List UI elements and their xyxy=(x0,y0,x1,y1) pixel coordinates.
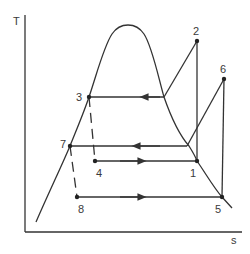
label-8: 8 xyxy=(78,203,84,215)
label-1: 1 xyxy=(190,167,196,179)
point-4 xyxy=(93,159,97,163)
line-6-to-dome xyxy=(187,79,224,146)
x-axis-label: s xyxy=(231,234,237,246)
line-5-to-6 xyxy=(222,79,224,197)
point-3 xyxy=(87,95,91,99)
label-6: 6 xyxy=(220,63,226,75)
line-3-to-4-dashed xyxy=(89,97,95,161)
t-s-diagram: T s 1 xyxy=(0,0,250,254)
label-5: 5 xyxy=(215,203,221,215)
label-3: 3 xyxy=(76,91,82,103)
line-7-to-8-dashed xyxy=(70,146,77,197)
saturation-dome xyxy=(36,25,232,222)
point-2 xyxy=(195,39,199,43)
axes xyxy=(25,15,242,232)
y-axis-label: T xyxy=(13,15,20,27)
point-6 xyxy=(222,77,226,81)
label-7: 7 xyxy=(60,138,66,150)
cycle-lines xyxy=(70,41,224,197)
label-2: 2 xyxy=(193,25,199,37)
line-2-to-dome xyxy=(164,41,197,97)
label-4: 4 xyxy=(96,167,102,179)
point-5 xyxy=(220,195,224,199)
point-1 xyxy=(195,159,199,163)
point-7 xyxy=(68,144,72,148)
point-8 xyxy=(75,195,79,199)
